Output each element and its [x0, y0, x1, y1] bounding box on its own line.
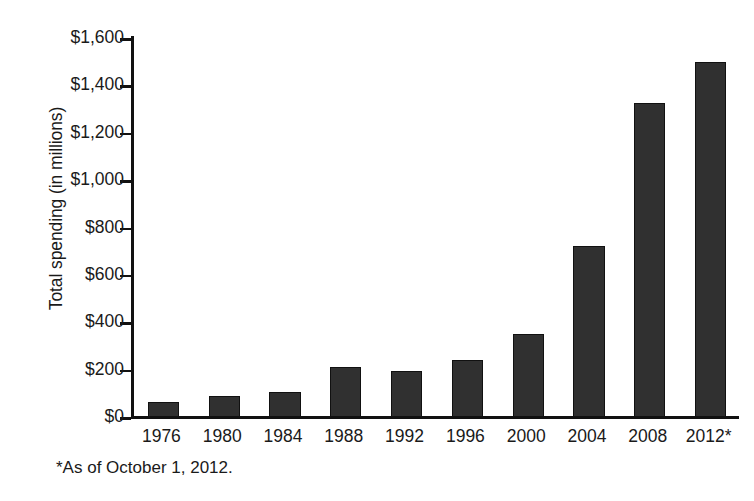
bar: [452, 360, 483, 417]
y-axis-tick-label: $1,200: [70, 122, 124, 143]
bar-chart-figure: Total spending (in millions) $0$200$400$…: [0, 0, 754, 501]
x-axis-tick-label: 1980: [192, 426, 253, 447]
y-axis-tick-label: $200: [85, 359, 124, 380]
chart-footnote: *As of October 1, 2012.: [56, 458, 233, 478]
y-axis-tick-label: $800: [85, 217, 124, 238]
bar: [695, 62, 726, 417]
y-axis-tick-label: $400: [85, 311, 124, 332]
y-axis-tick-label: $1,000: [70, 169, 124, 190]
x-axis-tick-label: 1984: [253, 426, 314, 447]
x-axis-tick-label: 2012*: [678, 426, 739, 447]
plot-area: $0$200$400$600$800$1,000$1,200$1,400$1,6…: [131, 38, 739, 417]
x-axis-tick-label: 1988: [313, 426, 374, 447]
y-axis-tick-label: $1,400: [70, 74, 124, 95]
x-axis-tick-label: 1992: [374, 426, 435, 447]
bar: [330, 367, 361, 417]
x-axis-tick-label: 1976: [131, 426, 192, 447]
x-axis-tick-label: 2008: [617, 426, 678, 447]
bar: [269, 392, 300, 417]
bar: [209, 396, 240, 417]
bar: [573, 246, 604, 417]
bar: [634, 103, 665, 417]
bar: [513, 334, 544, 417]
x-axis-tick-label: 2000: [496, 426, 557, 447]
bar: [148, 402, 179, 417]
x-axis-tick-label: 2004: [557, 426, 618, 447]
y-axis-title: Total spending (in millions): [46, 59, 67, 359]
bar: [391, 371, 422, 417]
y-axis-tick-label: $0: [105, 406, 124, 427]
x-axis-tick-label: 1996: [435, 426, 496, 447]
y-axis-tick-label: $1,600: [70, 27, 124, 48]
y-axis-tick-label: $600: [85, 264, 124, 285]
